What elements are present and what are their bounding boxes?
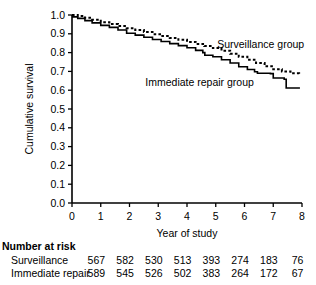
x-tick-label: 5 xyxy=(213,210,219,222)
survival-chart-figure: 0.00.10.20.30.40.50.60.70.80.91.00123456… xyxy=(0,0,316,285)
y-tick-label: 0.0 xyxy=(50,197,65,209)
y-tick-label: 0.8 xyxy=(50,46,65,58)
x-axis-title: Year of study xyxy=(157,227,219,239)
risk-value: 567 xyxy=(88,254,106,266)
x-tick-label: 4 xyxy=(184,210,190,222)
series-label-immediate-repair: Immediate repair group xyxy=(145,76,254,88)
y-tick-label: 0.7 xyxy=(50,65,65,77)
y-tick-label: 1.0 xyxy=(50,9,65,21)
risk-value: 383 xyxy=(203,267,221,279)
x-tick-label: 8 xyxy=(299,210,305,222)
x-tick-label: 1 xyxy=(98,210,104,222)
y-tick-label: 0.9 xyxy=(50,27,65,39)
x-tick-label: 2 xyxy=(127,210,133,222)
y-tick-label: 0.3 xyxy=(50,140,65,152)
y-tick-label: 0.2 xyxy=(50,159,65,171)
risk-value: 76 xyxy=(292,254,304,266)
risk-table-heading: Number at risk xyxy=(2,240,76,252)
y-tick-label: 0.6 xyxy=(50,84,65,96)
x-tick-label: 7 xyxy=(270,210,276,222)
risk-value: 526 xyxy=(145,267,163,279)
risk-value: 582 xyxy=(116,254,134,266)
risk-row-label: Immediate repair xyxy=(11,267,90,279)
risk-value: 513 xyxy=(174,254,192,266)
series-label-surveillance: Surveillance group xyxy=(217,38,304,50)
y-tick-label: 0.4 xyxy=(50,121,65,133)
risk-value: 502 xyxy=(174,267,192,279)
risk-value: 264 xyxy=(231,267,249,279)
x-tick-label: 6 xyxy=(242,210,248,222)
risk-value: 274 xyxy=(231,254,249,266)
risk-value: 589 xyxy=(88,267,106,279)
risk-value: 183 xyxy=(260,254,278,266)
risk-row-label: Surveillance xyxy=(11,254,68,266)
y-tick-label: 0.5 xyxy=(50,103,65,115)
kaplan-meier-chart: 0.00.10.20.30.40.50.60.70.80.91.00123456… xyxy=(0,0,316,285)
y-tick-label: 0.1 xyxy=(50,178,65,190)
risk-value: 67 xyxy=(292,267,304,279)
risk-value: 393 xyxy=(203,254,221,266)
risk-value: 172 xyxy=(260,267,278,279)
y-axis-title: Cumulative survival xyxy=(23,63,35,154)
risk-value: 530 xyxy=(145,254,163,266)
x-tick-label: 3 xyxy=(155,210,161,222)
x-tick-label: 0 xyxy=(69,210,75,222)
risk-value: 545 xyxy=(116,267,134,279)
